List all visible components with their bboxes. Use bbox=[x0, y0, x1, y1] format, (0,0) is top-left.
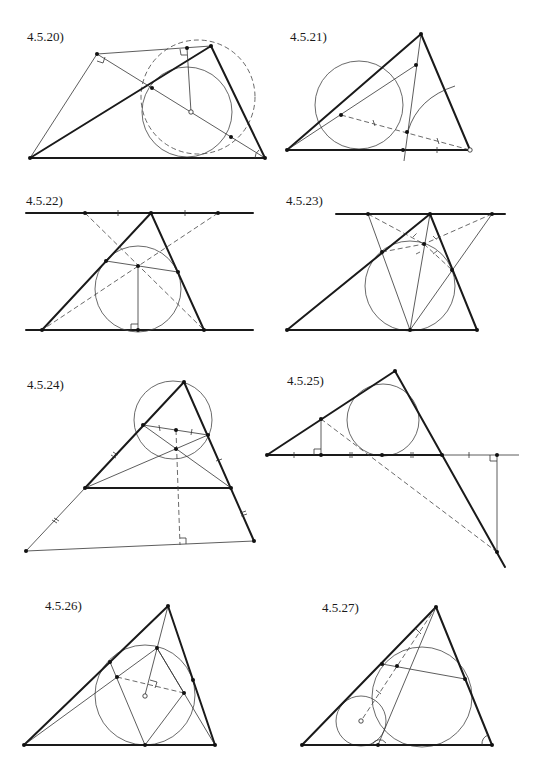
segment bbox=[30, 54, 97, 158]
segment bbox=[106, 261, 178, 272]
triangle-side bbox=[287, 214, 430, 330]
figure-4-5-27: 4.5.27) bbox=[300, 600, 494, 747]
figure-4-5-21: 4.5.21) bbox=[285, 29, 472, 161]
point bbox=[495, 453, 499, 457]
right-angle-mark bbox=[180, 49, 187, 55]
point bbox=[216, 211, 220, 215]
point bbox=[229, 135, 233, 139]
segment bbox=[368, 214, 410, 330]
point bbox=[136, 264, 140, 268]
point bbox=[104, 259, 108, 263]
point bbox=[22, 743, 26, 747]
point bbox=[265, 453, 269, 457]
point bbox=[191, 678, 195, 682]
figure-label: 4.5.27) bbox=[322, 600, 359, 615]
point bbox=[149, 211, 153, 215]
center-point bbox=[189, 110, 193, 114]
point bbox=[419, 32, 423, 36]
segment bbox=[26, 541, 254, 551]
point bbox=[28, 156, 32, 160]
tick-mark bbox=[376, 690, 381, 694]
figure-label: 4.5.21) bbox=[290, 29, 327, 44]
point bbox=[408, 328, 412, 332]
segment bbox=[110, 662, 145, 745]
tick-mark bbox=[373, 120, 375, 126]
dashed-segment bbox=[321, 419, 497, 552]
figure-label: 4.5.26) bbox=[45, 598, 82, 613]
point bbox=[155, 646, 159, 650]
figure-4-5-26: 4.5.26) bbox=[22, 598, 217, 747]
figure-label: 4.5.25) bbox=[287, 373, 324, 388]
dashed-segment bbox=[368, 214, 424, 244]
point bbox=[495, 550, 499, 554]
center-point bbox=[143, 694, 147, 698]
point bbox=[143, 743, 147, 747]
point bbox=[252, 539, 256, 543]
point bbox=[401, 148, 405, 152]
segment bbox=[287, 65, 416, 150]
point bbox=[174, 447, 178, 451]
segment bbox=[410, 214, 430, 330]
dashed-segment bbox=[361, 607, 436, 721]
point bbox=[209, 44, 213, 48]
triangle-side bbox=[24, 606, 168, 745]
point bbox=[176, 270, 180, 274]
point bbox=[213, 743, 217, 747]
segment bbox=[378, 607, 436, 745]
point bbox=[263, 156, 267, 160]
triangle-side bbox=[302, 607, 436, 745]
point bbox=[319, 417, 323, 421]
triangle-side bbox=[42, 213, 151, 330]
point bbox=[136, 328, 140, 332]
dashed-segment bbox=[117, 677, 184, 693]
point bbox=[395, 664, 399, 668]
point bbox=[182, 380, 186, 384]
figure-label: 4.5.23) bbox=[286, 193, 323, 208]
tick-mark bbox=[416, 629, 421, 634]
point bbox=[463, 677, 467, 681]
tick-mark bbox=[159, 425, 160, 431]
point bbox=[393, 369, 397, 373]
segment bbox=[24, 648, 157, 745]
dashed-circle bbox=[141, 40, 255, 154]
figure-label: 4.5.22) bbox=[26, 193, 63, 208]
point bbox=[174, 428, 178, 432]
point bbox=[206, 433, 210, 437]
point bbox=[115, 675, 119, 679]
point bbox=[405, 130, 409, 134]
figure-label: 4.5.20) bbox=[27, 29, 64, 44]
dashed-segment bbox=[42, 213, 218, 330]
point bbox=[229, 486, 233, 490]
figure-label: 4.5.24) bbox=[27, 377, 64, 392]
dashed-segment bbox=[85, 213, 204, 330]
point bbox=[182, 691, 186, 695]
point bbox=[440, 453, 444, 457]
center-point bbox=[359, 719, 363, 723]
figure-4-5-20: 4.5.20) bbox=[27, 29, 267, 160]
figure-4-5-25: 4.5.25) bbox=[265, 369, 519, 567]
point bbox=[108, 660, 112, 664]
point bbox=[490, 743, 494, 747]
segment bbox=[26, 488, 85, 551]
triangle-side bbox=[395, 371, 505, 567]
figure-4-5-22: 4.5.22) bbox=[26, 193, 253, 332]
point bbox=[166, 604, 170, 608]
triangle-side bbox=[30, 46, 211, 158]
figure-4-5-24: 4.5.24) bbox=[24, 377, 256, 553]
point bbox=[475, 328, 479, 332]
point bbox=[376, 743, 380, 747]
point bbox=[319, 453, 323, 457]
segment bbox=[382, 664, 465, 679]
incircle bbox=[315, 61, 403, 149]
point bbox=[285, 148, 289, 152]
segment bbox=[145, 693, 184, 745]
figure-4-5-23: 4.5.23) bbox=[285, 193, 505, 332]
point bbox=[40, 328, 44, 332]
incircle bbox=[372, 647, 472, 747]
point bbox=[339, 113, 343, 117]
point bbox=[434, 605, 438, 609]
arc bbox=[408, 86, 455, 131]
right-angle-mark bbox=[150, 680, 157, 688]
point bbox=[414, 63, 418, 67]
point bbox=[95, 52, 99, 56]
